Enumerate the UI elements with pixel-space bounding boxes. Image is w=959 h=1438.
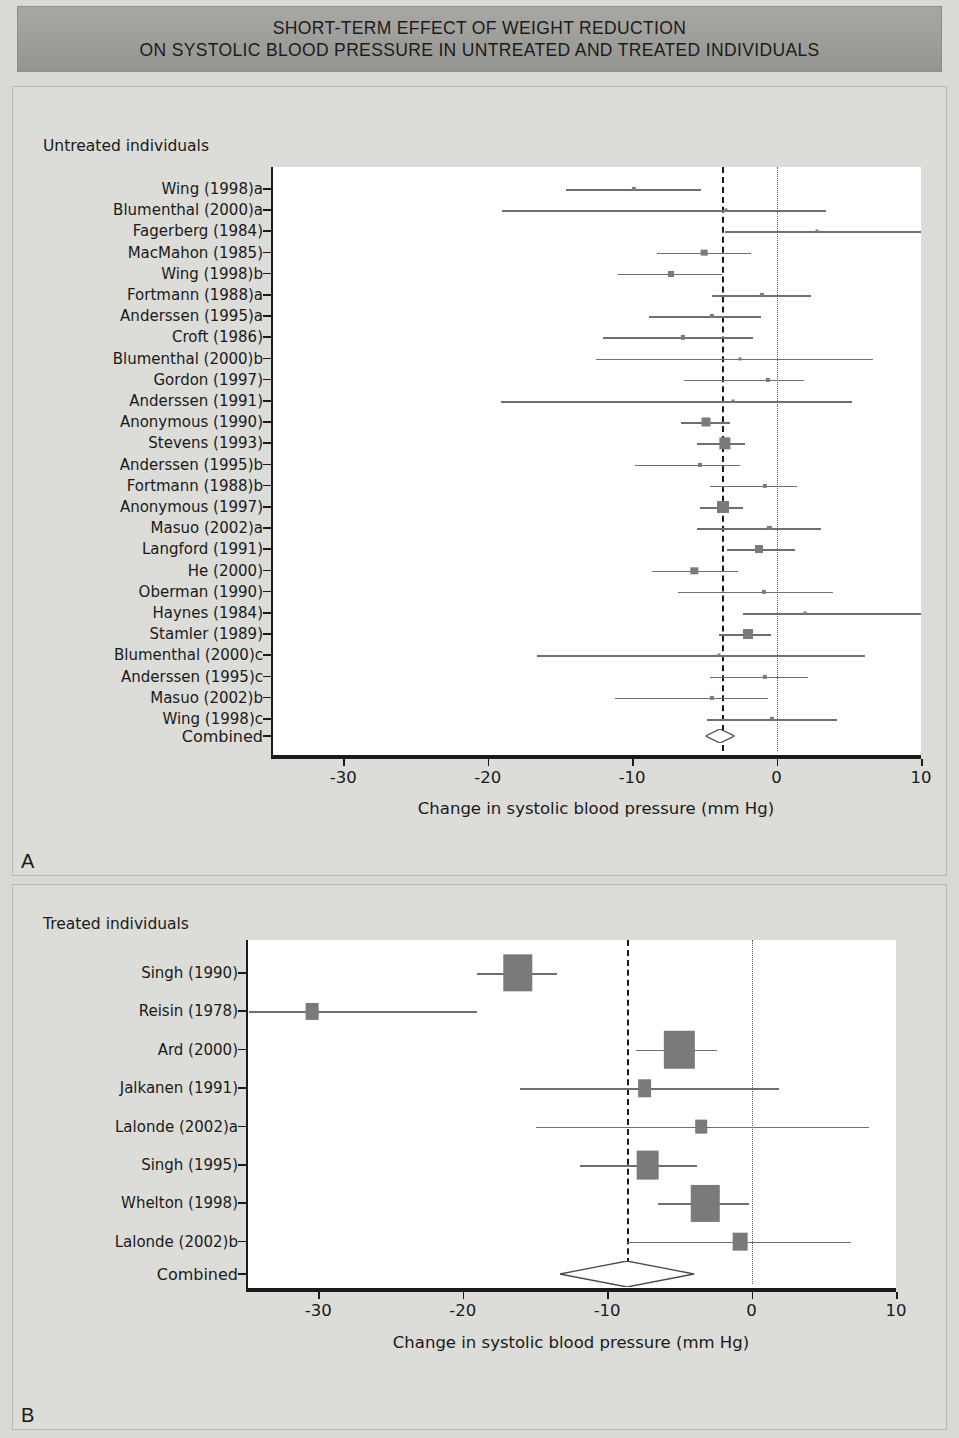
confidence-interval-line — [710, 677, 808, 679]
combined-effect-diamond — [560, 1261, 694, 1287]
study-label: Lalonde (2002)a — [115, 1118, 238, 1136]
x-axis-tick — [343, 759, 345, 766]
study-effect-marker — [743, 629, 753, 639]
x-axis-tick-label: -10 — [619, 768, 646, 787]
study-label: Gordon (1997) — [153, 371, 263, 389]
study-axis-tick — [238, 1087, 246, 1089]
study-axis-tick — [263, 358, 271, 360]
study-effect-marker — [701, 249, 708, 256]
study-axis-tick — [263, 252, 271, 254]
study-effect-marker — [755, 545, 763, 553]
x-axis-tick — [632, 759, 634, 766]
x-axis-tick — [463, 1292, 465, 1299]
x-axis-tick — [896, 1292, 898, 1299]
x-axis-tick-label: -10 — [594, 1301, 621, 1320]
confidence-interval-line — [501, 401, 852, 403]
study-label: Anonymous (1997) — [120, 498, 263, 516]
study-label: Anderssen (1995)a — [120, 307, 263, 325]
study-label: Masuo (2002)a — [151, 519, 263, 537]
panel-a-group-title: Untreated individuals — [43, 137, 209, 155]
study-axis-tick — [263, 506, 271, 508]
study-effect-marker — [767, 526, 771, 530]
study-axis-tick — [263, 464, 271, 466]
x-axis-tick-label: -20 — [449, 1301, 476, 1320]
x-axis-tick-label: 0 — [771, 768, 782, 787]
pooled-effect-reference-line — [722, 167, 724, 751]
confidence-interval-line — [502, 210, 826, 212]
confidence-interval-line — [725, 231, 921, 233]
confidence-interval-line — [596, 359, 873, 361]
combined-label: Combined — [157, 1265, 238, 1284]
panel-b-group-title: Treated individuals — [43, 915, 189, 933]
x-axis-tick-label: 0 — [746, 1301, 757, 1320]
x-axis-tick — [318, 1292, 320, 1299]
x-axis-tick — [921, 759, 923, 766]
study-label: Fortmann (1988)b — [127, 477, 263, 495]
study-label: Fortmann (1988)a — [127, 286, 263, 304]
x-axis-tick-label: -20 — [474, 768, 501, 787]
study-label: Whelton (1998) — [121, 1194, 238, 1212]
study-axis-tick — [263, 315, 271, 317]
study-axis-tick — [263, 442, 271, 444]
study-label: Wing (1998)a — [161, 180, 263, 198]
x-axis-line — [246, 1290, 896, 1292]
study-label: Oberman (1990) — [139, 583, 263, 601]
study-label: Anonymous (1990) — [120, 413, 263, 431]
study-label: Singh (1990) — [141, 964, 238, 982]
x-axis-title: Change in systolic blood pressure (mm Hg… — [418, 799, 774, 818]
study-axis-tick — [263, 379, 271, 381]
x-axis-tick — [607, 1292, 609, 1299]
study-axis-tick — [238, 1126, 246, 1128]
study-label: Haynes (1984) — [152, 604, 263, 622]
study-effect-marker — [717, 501, 729, 513]
confidence-interval-line — [678, 592, 833, 594]
study-axis-tick — [263, 548, 271, 550]
panel-b-letter: B — [21, 1404, 34, 1427]
study-axis-tick — [263, 400, 271, 402]
forest-plot-figure: SHORT-TERM EFFECT OF WEIGHT REDUCTION ON… — [0, 0, 959, 1438]
study-effect-marker — [719, 438, 730, 449]
study-effect-marker — [732, 400, 735, 403]
study-effect-marker — [698, 462, 702, 466]
study-effect-marker — [695, 1119, 707, 1134]
study-axis-tick — [263, 718, 271, 720]
combined-axis-tick — [238, 1273, 246, 1275]
study-axis-tick — [263, 654, 271, 656]
confidence-interval-line — [635, 465, 740, 467]
confidence-interval-line — [649, 316, 760, 318]
study-effect-marker — [664, 1031, 694, 1069]
study-axis-tick — [263, 527, 271, 529]
study-effect-marker — [631, 187, 635, 191]
figure-title-line-2: ON SYSTOLIC BLOOD PRESSURE IN UNTREATED … — [139, 39, 819, 61]
plot-area — [246, 940, 896, 1290]
confidence-interval-line — [249, 1011, 477, 1013]
confidence-interval-line — [684, 380, 804, 382]
study-effect-marker — [691, 567, 698, 574]
pooled-effect-reference-line — [627, 940, 629, 1284]
study-label: MacMahon (1985) — [128, 244, 263, 262]
study-effect-marker — [725, 209, 728, 212]
study-effect-marker — [816, 230, 819, 233]
confidence-interval-line — [697, 528, 821, 530]
x-axis-tick-label: 10 — [886, 1301, 907, 1320]
study-effect-marker — [638, 1079, 652, 1096]
study-label: Singh (1995) — [141, 1156, 238, 1174]
study-axis-tick — [263, 188, 271, 190]
x-axis-tick-label: 10 — [911, 768, 932, 787]
study-axis-tick — [238, 972, 246, 974]
study-axis-tick — [263, 209, 271, 211]
panel-a: A Untreated individuals Wing (1998)aBlum… — [12, 86, 947, 876]
study-label: Lalonde (2002)b — [115, 1233, 238, 1251]
study-effect-marker — [770, 717, 774, 721]
x-axis-tick-label: -30 — [305, 1301, 332, 1320]
study-effect-marker — [636, 1151, 659, 1180]
x-axis-line — [271, 757, 921, 759]
study-axis-tick — [238, 1049, 246, 1051]
study-axis-tick — [238, 1164, 246, 1166]
panel-a-letter: A — [21, 850, 34, 873]
combined-label: Combined — [182, 727, 263, 746]
study-axis-tick — [263, 570, 271, 572]
study-label: Fagerberg (1984) — [133, 222, 263, 240]
panel-b: B Treated individuals Singh (1990)Reisin… — [12, 884, 947, 1430]
study-axis-tick — [263, 294, 271, 296]
